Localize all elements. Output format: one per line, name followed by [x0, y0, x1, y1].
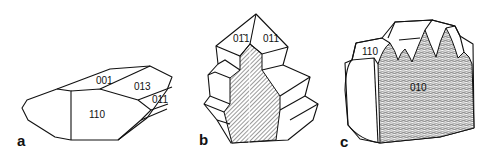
face-label: 013	[134, 81, 151, 92]
face-label: 01̄1	[233, 33, 250, 44]
crystal-b: 01̄1 011 b	[199, 14, 318, 148]
face-label: 110	[89, 109, 105, 120]
crystal-a: 001 013 011 110 a	[17, 66, 172, 149]
crystal-c: 110 010 c	[340, 20, 474, 150]
face-label: 011	[263, 33, 279, 44]
face-label: 001	[96, 75, 113, 86]
face-label: 010	[410, 82, 427, 93]
face-label: 110	[362, 46, 378, 57]
panel-label-c: c	[340, 133, 348, 150]
face-label: 011	[152, 94, 168, 105]
crystal-morphology-figure: 001 013 011 110 a 01̄1 011 b	[0, 0, 493, 152]
panel-label-a: a	[17, 132, 26, 149]
panel-label-b: b	[199, 131, 208, 148]
